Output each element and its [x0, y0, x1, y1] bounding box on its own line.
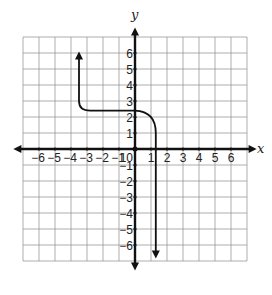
x-tick-label: 6 — [228, 151, 235, 165]
x-tick-label: 4 — [196, 151, 203, 165]
y-tick-label: 3 — [126, 95, 133, 109]
y-axis-label: y — [130, 7, 139, 22]
x-axis-label: x — [257, 141, 265, 156]
x-tick-label: −6 — [31, 151, 45, 165]
y-tick-label: 1 — [126, 127, 133, 141]
y-tick-label: −2 — [119, 175, 133, 189]
y-tick-label: 4 — [126, 79, 133, 93]
x-tick-label: −5 — [47, 151, 61, 165]
y-tick-label: 6 — [126, 47, 133, 61]
x-tick-label: 3 — [180, 151, 187, 165]
y-tick-label: 5 — [126, 63, 133, 77]
x-tick-label: −2 — [95, 151, 109, 165]
axes — [13, 27, 256, 270]
y-tick-label: −6 — [119, 239, 133, 253]
y-tick-label: −3 — [119, 191, 133, 205]
x-tick-label: −4 — [63, 151, 77, 165]
y-tick-label: −1 — [119, 159, 133, 173]
coordinate-plane: −6−5−4−3−2−112345610654321−1−2−3−4−5−6 x… — [0, 0, 272, 295]
x-tick-label: 5 — [212, 151, 219, 165]
y-tick-label: −5 — [119, 223, 133, 237]
y-tick-label: 2 — [126, 111, 133, 125]
x-tick-label: −3 — [79, 151, 93, 165]
x-tick-label: 2 — [164, 151, 171, 165]
y-tick-label: −4 — [119, 207, 133, 221]
x-tick-label: 1 — [148, 151, 155, 165]
